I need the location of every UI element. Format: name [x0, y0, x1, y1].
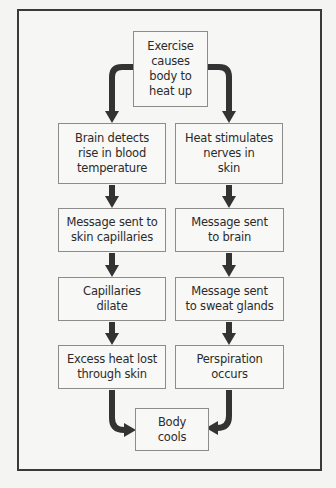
start-label: Exercise causes body to heat up: [147, 39, 193, 99]
right-step-4: Perspiration occurs: [175, 345, 284, 389]
right-step-1: Heat stimulates nerves in skin: [175, 123, 283, 184]
start-box: Exercise causes body to heat up: [133, 31, 208, 107]
right-step-3: Message sent to sweat glands: [175, 277, 284, 321]
right-step-4-label: Perspiration occurs: [196, 352, 262, 382]
right-step-2-label: Message sent to brain: [191, 215, 268, 245]
right-step-3-label: Message sent to sweat glands: [185, 284, 273, 314]
right-step-1-label: Heat stimulates nerves in skin: [185, 131, 273, 176]
left-step-3-label: Capillaries dilate: [83, 284, 141, 314]
left-step-1: Brain detects rise in blood temperature: [58, 123, 166, 184]
left-step-4-label: Excess heat lost through skin: [67, 352, 157, 382]
left-step-2-label: Message sent to skin capillaries: [66, 215, 157, 245]
left-step-4: Excess heat lost through skin: [58, 345, 166, 389]
end-box: Body cools: [135, 408, 209, 451]
right-step-2: Message sent to brain: [175, 208, 284, 252]
left-step-1-label: Brain detects rise in blood temperature: [75, 131, 149, 176]
left-step-3: Capillaries dilate: [58, 277, 166, 321]
end-label: Body cools: [158, 415, 187, 445]
left-step-2: Message sent to skin capillaries: [58, 208, 166, 252]
